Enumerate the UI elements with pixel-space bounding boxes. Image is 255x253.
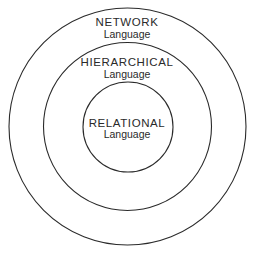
hierarchical-title: HIERARCHICAL xyxy=(81,56,174,68)
network-subtitle: Language xyxy=(104,28,151,40)
network-title: NETWORK xyxy=(96,16,159,28)
nested-circles-diagram: NETWORK Language HIERARCHICAL Language R… xyxy=(0,0,255,253)
relational-subtitle: Language xyxy=(104,128,151,140)
hierarchical-subtitle: Language xyxy=(104,68,151,80)
